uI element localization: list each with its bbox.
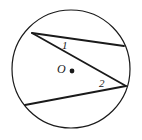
geometry-figure: 1 2 O bbox=[0, 0, 142, 140]
geometry-canvas bbox=[0, 0, 142, 140]
center-point-dot bbox=[70, 69, 75, 74]
chord-upper bbox=[32, 33, 124, 46]
angle-label-2: 2 bbox=[99, 78, 105, 89]
chord-lower bbox=[25, 86, 126, 105]
center-label-o: O bbox=[57, 63, 66, 75]
chord-diagonal bbox=[32, 33, 126, 86]
angle-label-1: 1 bbox=[62, 40, 68, 51]
